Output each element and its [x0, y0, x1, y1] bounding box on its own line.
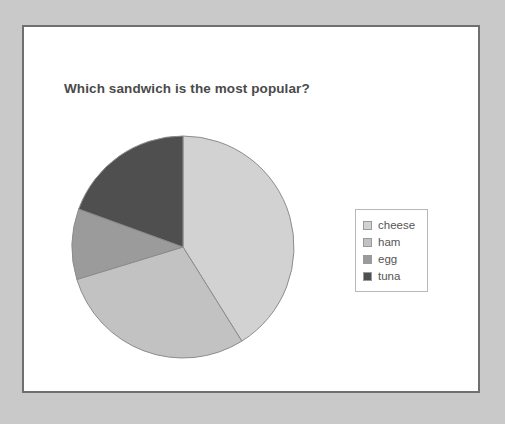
legend-swatch-egg: [363, 255, 372, 264]
pie-slice-group: [72, 136, 294, 358]
pie-chart-svg: [70, 134, 296, 360]
legend-item-ham[interactable]: ham: [363, 234, 421, 250]
legend-swatch-cheese: [363, 221, 372, 230]
legend-label-cheese: cheese: [378, 219, 415, 232]
pie-chart: [70, 134, 296, 360]
legend-swatch-tuna: [363, 272, 372, 281]
chart-title: Which sandwich is the most popular?: [64, 81, 310, 96]
legend-item-cheese[interactable]: cheese: [363, 217, 421, 233]
legend-swatch-ham: [363, 238, 372, 247]
legend-item-egg[interactable]: egg: [363, 251, 421, 267]
legend-item-tuna[interactable]: tuna: [363, 268, 421, 284]
chart-frame: Which sandwich is the most popular? chee…: [22, 25, 480, 393]
page-background: Which sandwich is the most popular? chee…: [0, 0, 505, 424]
legend-label-egg: egg: [378, 253, 397, 266]
legend-label-tuna: tuna: [378, 270, 400, 283]
legend-label-ham: ham: [378, 236, 400, 249]
chart-legend: cheese ham egg tuna: [355, 209, 428, 292]
